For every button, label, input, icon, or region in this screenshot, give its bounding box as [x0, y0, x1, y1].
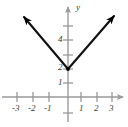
x-tick-label--2: -2: [28, 104, 36, 113]
x-tick-label--3: -3: [12, 104, 20, 113]
x-tick-label-3: 3: [109, 104, 114, 113]
x-tick-label-2: 2: [94, 104, 99, 113]
curve-right-branch: [68, 16, 114, 69]
vertex-point: [66, 67, 70, 71]
x-tick-label--1: -1: [44, 104, 52, 113]
y-tick-label-4: 4: [58, 35, 63, 44]
x-tick-label-1: 1: [79, 104, 84, 113]
y-axis-label: y: [76, 3, 80, 12]
absolute-value-curve: [24, 16, 114, 71]
y-tick-label-1: 1: [58, 78, 63, 87]
x-axis: [2, 92, 123, 102]
y-tick-label-2: 2: [58, 63, 63, 72]
graph-figure: -3 -2 -1 1 2 3 1 2 4 y: [0, 0, 128, 127]
